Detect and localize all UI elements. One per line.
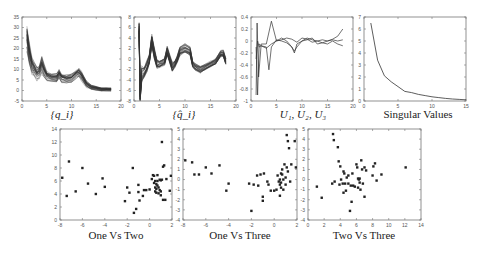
scatter-point — [347, 182, 349, 184]
scatter-point — [132, 167, 134, 169]
y-tick-label: 20 — [13, 45, 19, 51]
scatter-point — [145, 189, 147, 191]
panel-u-vectors: 05101520-1-0.8-0.6-0.4-0.200.20.4 — [239, 14, 356, 109]
x-tick-label: 2 — [296, 222, 299, 228]
scatter-point — [161, 141, 163, 143]
x-tick-label: -8 — [181, 222, 186, 228]
y-tick-label: 14 — [51, 126, 57, 132]
ensemble-curve — [27, 37, 111, 89]
scatter-point — [266, 180, 268, 182]
y-tick-label: 0 — [177, 176, 180, 182]
scatter-point — [138, 199, 140, 201]
y-tick-label: 8 — [54, 165, 57, 171]
y-tick-label: -5 — [15, 98, 20, 104]
scatter-point — [350, 184, 352, 186]
x-tick-label: 5 — [45, 103, 48, 109]
x-tick-label: -4 — [103, 222, 108, 228]
ensemble-curve — [139, 24, 226, 92]
scatter-point — [227, 182, 229, 184]
x-tick-label: 4 — [339, 222, 342, 228]
y-tick-label: 15 — [13, 56, 19, 62]
scatter-point — [165, 178, 167, 180]
scatter-point — [135, 208, 137, 210]
scatter-point — [160, 194, 162, 196]
y-tick-label: -0.6 — [239, 74, 248, 80]
y-tick-label: -1 — [176, 186, 181, 192]
scatter-point — [371, 174, 373, 176]
y-tick-label: -0.4 — [239, 62, 248, 68]
scatter-point — [355, 163, 357, 165]
scatter-point — [205, 166, 207, 168]
y-tick-label: 3 — [358, 62, 361, 68]
scatter-point — [104, 186, 106, 188]
x-tick-label: -6 — [204, 222, 209, 228]
scatter-point — [363, 196, 365, 198]
y-tick-label: -2 — [176, 197, 181, 203]
scatter-point — [290, 163, 292, 165]
scatter-point — [193, 173, 195, 175]
scatter-point — [288, 147, 290, 149]
plot-frame — [60, 129, 172, 220]
scatter-point — [282, 178, 284, 180]
x-tick-label: 0 — [273, 222, 276, 228]
y-tick-label: 0 — [245, 38, 248, 44]
scatter-point — [158, 189, 160, 191]
y-tick-label: 2 — [177, 156, 180, 162]
scatter-point — [282, 188, 284, 190]
y-tick-label: -2 — [127, 66, 132, 72]
scatter-point — [250, 210, 252, 212]
scatter-point — [358, 177, 360, 179]
scatter-point — [252, 183, 254, 185]
scatter-point — [404, 166, 406, 168]
y-tick-label: 12 — [51, 139, 57, 145]
caption-qhat: {q̂_i} — [173, 108, 196, 120]
y-tick-label: -4 — [127, 77, 132, 83]
scatter-point — [155, 192, 157, 194]
scatter-point — [225, 189, 227, 191]
scatter-point — [137, 191, 139, 193]
scatter-point — [163, 164, 165, 166]
scatter-point — [259, 173, 261, 175]
ensemble-curve — [139, 23, 226, 91]
scatter-point — [257, 184, 259, 186]
singular-value-line — [371, 23, 466, 100]
caption-u: U₁, U₂, U₃ — [280, 108, 326, 120]
scatter-point — [287, 140, 289, 142]
x-tick-label: 5 — [158, 103, 161, 109]
x-tick-label: -4 — [226, 222, 231, 228]
x-tick-label: 0 — [307, 222, 310, 228]
x-tick-label: -6 — [80, 222, 85, 228]
scatter-point — [295, 166, 297, 168]
scatter-point — [256, 174, 258, 176]
scatter-point — [157, 192, 159, 194]
y-tick-label: 5 — [177, 126, 180, 132]
ensemble-curve — [27, 28, 111, 88]
scatter-point — [68, 160, 70, 162]
scatter-point — [342, 182, 344, 184]
scatter-point — [347, 174, 349, 176]
y-tick-label: 4 — [128, 35, 131, 41]
scatter-point — [148, 188, 150, 190]
scatter-point — [374, 162, 376, 164]
x-tick-label: 0 — [363, 103, 366, 109]
y-tick-label: -2 — [301, 197, 306, 203]
scatter-point — [354, 185, 356, 187]
scatter-point — [279, 178, 281, 180]
scatter-point — [351, 172, 353, 174]
y-tick-label: -0.8 — [239, 86, 248, 92]
x-tick-label: 20 — [118, 103, 124, 109]
scatter-point — [248, 182, 250, 184]
scatter-point — [365, 169, 367, 171]
scatter-point — [358, 181, 360, 183]
y-tick-label: 0 — [358, 98, 361, 104]
scatter-point — [372, 165, 374, 167]
scatter-point — [280, 181, 282, 183]
y-tick-label: 3 — [177, 146, 180, 152]
scatter-point — [143, 189, 145, 191]
y-tick-label: 30 — [13, 24, 19, 30]
ensemble-curve — [139, 24, 226, 92]
y-tick-label: -3 — [301, 207, 306, 213]
scatter-point — [156, 174, 158, 176]
scatter-point — [289, 180, 291, 182]
y-tick-label: 5 — [16, 77, 19, 83]
